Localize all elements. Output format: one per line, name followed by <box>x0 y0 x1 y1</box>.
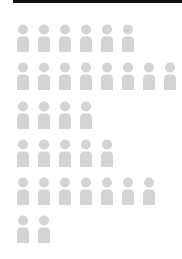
person-icon <box>142 62 163 92</box>
person-icon <box>37 215 58 245</box>
pictograph-row <box>16 215 182 253</box>
person-icon <box>58 101 79 131</box>
person-icon <box>16 101 37 131</box>
person-icon <box>58 24 79 54</box>
person-icon <box>121 62 142 92</box>
person-icon <box>100 139 121 169</box>
person-icon <box>163 62 182 92</box>
pictograph-row <box>16 139 182 177</box>
person-icon <box>37 177 58 207</box>
person-icon <box>16 62 37 92</box>
person-icon <box>142 177 163 207</box>
person-icon <box>16 139 37 169</box>
top-bar <box>13 0 182 3</box>
person-icon <box>37 139 58 169</box>
person-icon <box>100 62 121 92</box>
person-icon <box>58 139 79 169</box>
pictograph-chart <box>16 24 182 254</box>
pictograph-row <box>16 62 182 100</box>
pictograph-row <box>16 24 182 62</box>
person-icon <box>100 177 121 207</box>
person-icon <box>79 177 100 207</box>
person-icon <box>16 24 37 54</box>
person-icon <box>37 24 58 54</box>
person-icon <box>79 24 100 54</box>
person-icon <box>121 177 142 207</box>
person-icon <box>58 62 79 92</box>
person-icon <box>79 101 100 131</box>
person-icon <box>37 62 58 92</box>
pictograph-row <box>16 101 182 139</box>
person-icon <box>16 215 37 245</box>
person-icon <box>37 101 58 131</box>
person-icon <box>79 62 100 92</box>
person-icon <box>16 177 37 207</box>
person-icon <box>121 24 142 54</box>
person-icon <box>58 177 79 207</box>
person-icon <box>100 24 121 54</box>
pictograph-row <box>16 177 182 215</box>
person-icon <box>79 139 100 169</box>
